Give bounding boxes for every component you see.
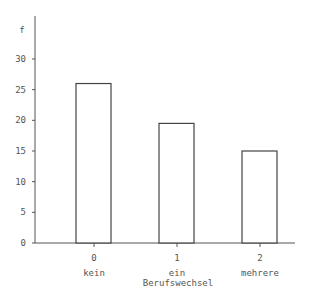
x-axis-label: Berufswechsel bbox=[143, 278, 213, 288]
bar bbox=[159, 123, 194, 243]
y-tick-label: 0 bbox=[21, 238, 26, 248]
bars bbox=[76, 84, 277, 243]
bar bbox=[242, 151, 277, 243]
y-tick-label: 5 bbox=[21, 207, 26, 217]
bar bbox=[76, 84, 111, 243]
y-tick-label: 30 bbox=[15, 54, 26, 64]
x-category-sublabel: mehrere bbox=[241, 268, 279, 278]
x-tick-label: 1 bbox=[174, 253, 179, 263]
x-category-sublabel: ein bbox=[169, 268, 185, 278]
y-tick-label: 10 bbox=[15, 177, 26, 187]
y-ticks: 051015202530 bbox=[15, 54, 35, 248]
x-tick-label: 2 bbox=[257, 253, 262, 263]
y-tick-label: 15 bbox=[15, 146, 26, 156]
y-axis-label: f bbox=[19, 25, 24, 35]
bar-chart: 051015202530 0kein1ein2mehrere f Berufsw… bbox=[0, 0, 309, 302]
y-tick-label: 20 bbox=[15, 115, 26, 125]
x-tick-label: 0 bbox=[91, 253, 96, 263]
x-category-sublabel: kein bbox=[83, 268, 105, 278]
y-tick-label: 25 bbox=[15, 85, 26, 95]
x-ticks: 0kein1ein2mehrere bbox=[83, 243, 279, 278]
